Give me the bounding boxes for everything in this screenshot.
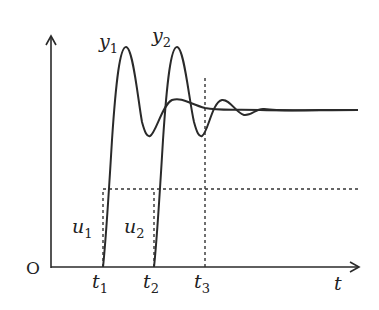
y2-label: y2 [151, 24, 171, 50]
u2-label: u2 [124, 215, 145, 241]
axes [46, 36, 359, 272]
t3-label: t3 [194, 270, 210, 296]
u1-label: u1 [72, 215, 93, 241]
t2-label: t2 [143, 270, 159, 296]
origin-label: O [26, 258, 40, 278]
curve-y2 [154, 47, 358, 267]
y1-label: y1 [98, 30, 118, 56]
step-response-diagram: O t y1 y2 u1 u2 t1 t2 t3 [0, 0, 379, 310]
x-axis-label: t [334, 272, 342, 294]
t1-label: t1 [92, 270, 108, 296]
